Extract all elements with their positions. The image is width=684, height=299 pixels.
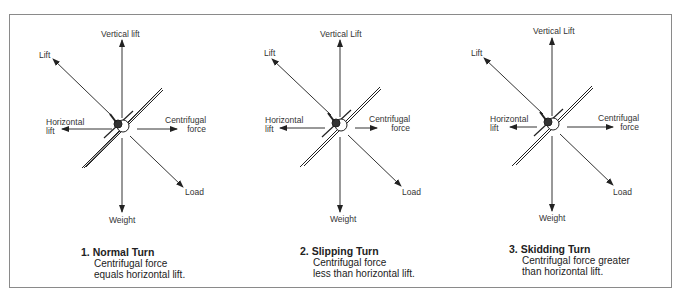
label-load: Load [402, 188, 421, 197]
label-lift: Lift [39, 51, 50, 60]
label-horizontal-lift: Horizontallift [490, 115, 528, 133]
label-centrifugal-force: Centrifugalforce [598, 114, 639, 132]
label-weight: Weight [109, 216, 135, 225]
label-centrifugal-force: Centrifugalforce [369, 115, 410, 133]
label-weight: Weight [539, 214, 565, 223]
label-vertical-lift: Vertical Lift [320, 30, 362, 39]
label-horizontal-lift: Horizontallift [46, 118, 84, 136]
panel-1-caption: 1. Normal Turn Centrifugal force equals … [81, 247, 185, 280]
label-load: Load [185, 188, 204, 197]
label-centrifugal-force: Centrifugalforce [165, 116, 206, 134]
label-lift: Lift [264, 49, 275, 58]
label-vertical-lift: Vertical lift [101, 30, 140, 39]
label-lift: Lift [471, 49, 482, 58]
panel-2-caption: 2. Slipping Turn Centrifugal force less … [300, 246, 415, 279]
label-vertical-lift: Vertical Lift [533, 27, 575, 36]
panel-3-caption: 3. Skidding Turn Centrifugal force great… [509, 244, 630, 277]
label-weight: Weight [330, 215, 356, 224]
label-horizontal-lift: Horizontallift [265, 116, 303, 134]
label-load: Load [613, 188, 632, 197]
